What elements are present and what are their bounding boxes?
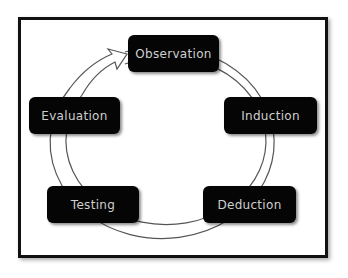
node-induction: Induction [224,97,317,134]
node-label: Observation [135,47,211,61]
node-evaluation: Evaluation [29,97,120,134]
arrowhead-icon [70,49,127,95]
node-deduction: Deduction [203,186,296,223]
node-testing: Testing [47,186,139,223]
node-label: Deduction [217,198,281,212]
node-label: Induction [241,109,300,123]
node-label: Testing [71,198,115,212]
node-observation: Observation [128,35,219,72]
node-label: Evaluation [41,109,107,123]
